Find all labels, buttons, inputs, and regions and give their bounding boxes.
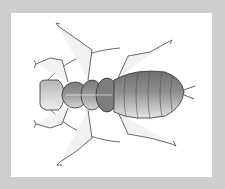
front-leg-lower-tarsus xyxy=(34,120,36,128)
hind-leg-upper-tarsus xyxy=(168,40,172,44)
insect-illustration xyxy=(0,0,225,189)
hind-leg-lower-tarsus xyxy=(172,141,176,146)
front-leg-upper xyxy=(36,58,68,82)
cercus-upper xyxy=(184,86,195,90)
head xyxy=(40,80,64,110)
middle-leg-lower xyxy=(60,110,92,162)
middle-leg-upper-tarsus xyxy=(56,23,60,26)
front-leg-upper-tarsus xyxy=(34,60,36,68)
middle-leg-lower-tarsus xyxy=(57,162,62,165)
cerci xyxy=(184,86,195,99)
cercus-lower xyxy=(184,95,194,99)
